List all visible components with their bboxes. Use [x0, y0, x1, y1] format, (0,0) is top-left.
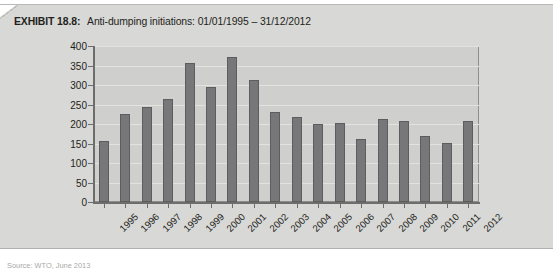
x-tick-mark	[104, 204, 105, 208]
x-tick-label: 2006	[353, 211, 376, 234]
bar	[463, 121, 473, 202]
y-tick-label: 150	[70, 138, 87, 149]
y-tick-label: 400	[70, 41, 87, 52]
y-tick-mark	[88, 105, 93, 106]
y-tick-mark	[88, 202, 93, 203]
x-tick-mark	[404, 204, 405, 208]
x-tick-label: 2004	[310, 211, 333, 234]
y-axis-tick-labels: 050100150200250300350400	[55, 46, 87, 202]
y-tick-label: 300	[70, 80, 87, 91]
bar	[442, 143, 452, 202]
x-tick-label: 2002	[267, 211, 290, 234]
x-tick-label: 2011	[460, 211, 482, 233]
x-tick-mark	[297, 204, 298, 208]
x-tick-label: 1999	[203, 211, 226, 234]
y-tick-mark	[88, 144, 93, 145]
gridline	[93, 85, 479, 86]
x-tick-label: 1997	[160, 211, 183, 234]
bar	[227, 57, 237, 202]
gridline	[93, 46, 479, 47]
x-tick-label: 2001	[246, 211, 269, 234]
y-tick-mark	[88, 163, 93, 164]
x-tick-label: 2000	[224, 211, 247, 234]
y-tick-label: 200	[70, 119, 87, 130]
bar	[399, 121, 409, 202]
y-tick-label: 250	[70, 99, 87, 110]
x-tick-mark	[383, 204, 384, 208]
bar	[185, 63, 195, 202]
x-tick-label: 1995	[117, 211, 140, 234]
x-tick-mark	[168, 204, 169, 208]
bar	[292, 117, 302, 202]
x-tick-mark	[147, 204, 148, 208]
y-tick-mark	[88, 124, 93, 125]
exhibit-title: EXHIBIT 18.8: Anti-dumping initiations: …	[14, 16, 311, 27]
y-tick-mark	[88, 85, 93, 86]
bar	[163, 99, 173, 202]
exhibit-title-text: Anti-dumping initiations: 01/01/1995 – 3…	[87, 16, 311, 27]
x-tick-mark	[232, 204, 233, 208]
x-tick-mark	[447, 204, 448, 208]
bar	[356, 139, 366, 202]
source-note: Source: WTO, June 2013	[7, 261, 90, 270]
bar	[249, 80, 259, 202]
y-tick-label: 50	[76, 177, 87, 188]
bar	[270, 112, 280, 202]
bar	[142, 107, 152, 202]
y-tick-mark	[88, 66, 93, 67]
bar	[99, 141, 109, 202]
x-tick-mark	[125, 204, 126, 208]
x-tick-label: 2007	[374, 211, 397, 234]
chart-plot-area	[93, 46, 479, 202]
y-tick-mark	[88, 46, 93, 47]
x-tick-label: 2010	[439, 211, 462, 234]
y-tick-label: 100	[70, 158, 87, 169]
x-tick-label: 2009	[417, 211, 440, 234]
x-tick-label: 1998	[181, 211, 204, 234]
x-tick-mark	[425, 204, 426, 208]
bar	[378, 119, 388, 202]
exhibit-label: EXHIBIT 18.8:	[14, 16, 80, 27]
x-tick-label: 2003	[289, 211, 312, 234]
bar	[313, 124, 323, 202]
x-tick-mark	[340, 204, 341, 208]
x-tick-mark	[254, 204, 255, 208]
gridline	[93, 105, 479, 106]
bar	[335, 123, 345, 202]
x-tick-mark	[361, 204, 362, 208]
y-tick-label: 350	[70, 60, 87, 71]
x-tick-label: 2008	[396, 211, 419, 234]
gridline	[93, 66, 479, 67]
y-tick-label: 0	[81, 197, 87, 208]
bar	[120, 114, 130, 202]
bar	[206, 87, 216, 202]
x-axis-tick-labels: 1995199619971998199920002001200220032004…	[93, 204, 479, 248]
x-tick-label: 2005	[331, 211, 354, 234]
x-tick-mark	[275, 204, 276, 208]
x-tick-label: 1996	[138, 211, 161, 234]
bar	[420, 136, 430, 202]
x-tick-mark	[318, 204, 319, 208]
x-tick-mark	[190, 204, 191, 208]
x-tick-mark	[211, 204, 212, 208]
y-tick-mark	[88, 183, 93, 184]
x-tick-mark	[468, 204, 469, 208]
y-axis-tick-marks	[93, 46, 94, 202]
